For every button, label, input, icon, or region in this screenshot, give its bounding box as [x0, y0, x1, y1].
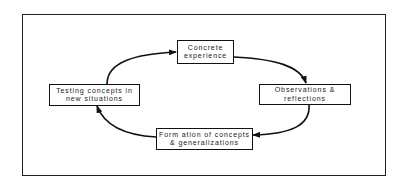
arrow-formation-to-testing	[97, 106, 156, 137]
node-label-line: new situations	[66, 95, 123, 104]
node-label-line: Form ation of concepts	[159, 131, 250, 140]
node-formation-of-concepts: Form ation of concepts & generalizations	[156, 128, 253, 150]
arrow-observations-to-formation	[253, 104, 309, 135]
arrow-testing-to-concrete	[107, 52, 176, 84]
node-label-line: & generalizations	[170, 139, 239, 148]
node-observations-reflections: Observations & reflections	[259, 84, 351, 105]
arrow-concrete-to-observations	[234, 57, 306, 83]
node-testing-concepts: Testing concepts in new situations	[49, 84, 140, 106]
node-label-line: Concrete	[188, 44, 224, 53]
node-label-line: experience	[184, 52, 227, 61]
node-label-line: Observations &	[275, 86, 335, 95]
node-label-line: reflections	[284, 95, 326, 104]
node-concrete-experience: Concrete experience	[177, 40, 234, 64]
node-label-line: Testing concepts in	[56, 87, 133, 96]
